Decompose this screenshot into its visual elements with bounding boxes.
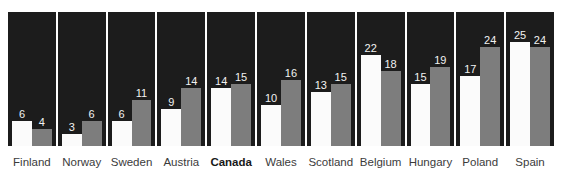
bar-value-label: 15 xyxy=(235,71,247,84)
bar xyxy=(510,42,530,146)
bar-column: 18 xyxy=(381,71,401,146)
bar-group: 1724 xyxy=(456,12,504,146)
bar xyxy=(12,121,32,146)
bar-column: 6 xyxy=(12,121,32,146)
bar-value-label: 24 xyxy=(534,34,546,47)
bar-column: 3 xyxy=(62,134,82,146)
country-panel: 2524 xyxy=(506,12,554,146)
category-label-scotland: Scotland xyxy=(307,150,355,174)
bar-value-label: 14 xyxy=(215,75,227,88)
plot-area: 64366119141415101613152218151917242524 xyxy=(8,12,554,146)
country-panel: 1016 xyxy=(257,12,305,146)
category-label-wales: Wales xyxy=(257,150,305,174)
bar-column: 13 xyxy=(311,92,331,146)
category-label-poland: Poland xyxy=(456,150,504,174)
bar-group: 2218 xyxy=(357,12,405,146)
bar xyxy=(211,88,231,146)
grouped-bar-chart: 64366119141415101613152218151917242524 F… xyxy=(0,0,562,182)
bar-group: 1519 xyxy=(407,12,455,146)
bar-value-label: 25 xyxy=(514,29,526,42)
bar-value-label: 24 xyxy=(484,34,496,47)
bar xyxy=(261,105,281,146)
bar-value-label: 16 xyxy=(285,67,297,80)
bar-group: 36 xyxy=(58,12,106,146)
category-label-spain: Spain xyxy=(506,150,554,174)
bar xyxy=(181,88,201,146)
bar-value-label: 15 xyxy=(335,71,347,84)
bar xyxy=(430,67,450,146)
bar xyxy=(480,47,500,146)
category-label-norway: Norway xyxy=(58,150,106,174)
category-label-austria: Austria xyxy=(157,150,205,174)
bar-group: 1415 xyxy=(207,12,255,146)
bar-column: 10 xyxy=(261,105,281,146)
bar-column: 19 xyxy=(430,67,450,146)
bar xyxy=(281,80,301,146)
bar-column: 16 xyxy=(281,80,301,146)
bar xyxy=(311,92,331,146)
bar-column: 25 xyxy=(510,42,530,146)
bar-column: 11 xyxy=(132,100,152,146)
bar xyxy=(361,55,381,146)
bar xyxy=(132,100,152,146)
category-label-belgium: Belgium xyxy=(357,150,405,174)
bar xyxy=(460,76,480,146)
bar-value-label: 6 xyxy=(19,108,25,121)
bar-group: 1315 xyxy=(307,12,355,146)
country-panel: 1315 xyxy=(307,12,355,146)
bar-value-label: 13 xyxy=(315,79,327,92)
category-label-finland: Finland xyxy=(8,150,56,174)
country-panel: 64 xyxy=(8,12,56,146)
bar xyxy=(231,84,251,146)
bar xyxy=(381,71,401,146)
bar xyxy=(62,134,82,146)
bar-value-label: 15 xyxy=(414,71,426,84)
bar-group: 914 xyxy=(157,12,205,146)
bar xyxy=(331,84,351,146)
country-panel: 611 xyxy=(108,12,156,146)
bar xyxy=(32,129,52,146)
bar-value-label: 18 xyxy=(384,58,396,71)
country-panel: 1519 xyxy=(407,12,455,146)
bar-value-label: 11 xyxy=(136,87,147,100)
country-panel: 2218 xyxy=(357,12,405,146)
bar xyxy=(82,121,102,146)
category-label-canada: Canada xyxy=(207,150,255,174)
bar xyxy=(112,121,132,146)
bar-value-label: 6 xyxy=(119,108,125,121)
country-panel: 1415 xyxy=(207,12,255,146)
bar-value-label: 22 xyxy=(365,42,377,55)
bar-value-label: 3 xyxy=(69,121,75,134)
bar-column: 15 xyxy=(411,84,431,146)
bar-column: 15 xyxy=(331,84,351,146)
bar-value-label: 6 xyxy=(89,108,95,121)
bar-column: 22 xyxy=(361,55,381,146)
bar-group: 64 xyxy=(8,12,56,146)
bar-column: 4 xyxy=(32,129,52,146)
bar-value-label: 17 xyxy=(464,63,476,76)
bar-column: 24 xyxy=(480,47,500,146)
bar-column: 9 xyxy=(161,109,181,146)
bar-column: 17 xyxy=(460,76,480,146)
country-panel: 1724 xyxy=(456,12,504,146)
category-labels-row: FinlandNorwaySwedenAustriaCanadaWalesSco… xyxy=(8,150,554,174)
bar-column: 6 xyxy=(82,121,102,146)
bar-column: 14 xyxy=(211,88,231,146)
bar xyxy=(530,47,550,146)
category-label-hungary: Hungary xyxy=(407,150,455,174)
bar-column: 15 xyxy=(231,84,251,146)
bar-value-label: 9 xyxy=(168,96,174,109)
bar-group: 2524 xyxy=(506,12,554,146)
bar-column: 24 xyxy=(530,47,550,146)
bar-value-label: 10 xyxy=(265,92,277,105)
category-label-sweden: Sweden xyxy=(108,150,156,174)
country-panel: 36 xyxy=(58,12,106,146)
bar xyxy=(411,84,431,146)
bar xyxy=(161,109,181,146)
bar-column: 6 xyxy=(112,121,132,146)
bar-value-label: 14 xyxy=(185,75,197,88)
bar-value-label: 19 xyxy=(434,54,446,67)
bar-value-label: 4 xyxy=(39,116,45,129)
bar-group: 1016 xyxy=(257,12,305,146)
bar-column: 14 xyxy=(181,88,201,146)
